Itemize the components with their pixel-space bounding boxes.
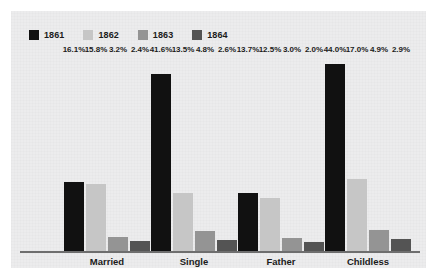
bar-slot-1862: 12.5%	[260, 55, 280, 251]
bar-slot-1863: 3.2%	[108, 55, 128, 251]
bar-value-label: 13.5%	[172, 46, 195, 54]
bar-value-label: 13.7%	[237, 46, 260, 54]
bar-value-label: 4.8%	[196, 46, 214, 54]
bar-slot-1862: 15.8%	[86, 55, 106, 251]
bar-slot-1861: 16.1%	[64, 55, 84, 251]
bar-slot-1861: 41.6%	[151, 55, 171, 251]
legend-label-1861: 1861	[44, 31, 64, 40]
bars-row: 16.1%15.8%3.2%2.4%	[64, 55, 150, 251]
bar-value-label: 3.0%	[283, 46, 301, 54]
legend-item-1861: 1861	[29, 30, 64, 40]
bar-value-label: 44.0%	[324, 46, 347, 54]
legend-label-1863: 1863	[153, 31, 173, 40]
bar-single-1861[interactable]: 41.6%	[151, 74, 171, 251]
legend-swatch-1864	[192, 30, 202, 40]
bars-row: 41.6%13.5%4.8%2.6%	[151, 55, 237, 251]
bar-single-1863[interactable]: 4.8%	[195, 231, 215, 251]
bar-childless-1864[interactable]: 2.9%	[391, 239, 411, 251]
bar-value-label: 12.5%	[259, 46, 282, 54]
bar-slot-1862: 13.5%	[173, 55, 193, 251]
bar-group-single: 41.6%13.5%4.8%2.6%Single	[151, 55, 237, 251]
bar-childless-1861[interactable]: 44.0%	[325, 64, 345, 251]
bar-chart-figure: 1861 1862 1863 1864 16.1%15.8%3.2%2.4%Ma…	[0, 0, 439, 278]
bar-single-1864[interactable]: 2.6%	[217, 240, 237, 251]
legend-swatch-1863	[138, 30, 148, 40]
bar-group-father: 13.7%12.5%3.0%2.0%Father	[238, 55, 324, 251]
bar-father-1862[interactable]: 12.5%	[260, 198, 280, 251]
legend-item-1863: 1863	[138, 30, 173, 40]
bars-row: 13.7%12.5%3.0%2.0%	[238, 55, 324, 251]
bar-slot-1862: 17.0%	[347, 55, 367, 251]
legend-swatch-1861	[29, 30, 39, 40]
bar-father-1861[interactable]: 13.7%	[238, 193, 258, 251]
bar-value-label: 17.0%	[346, 46, 369, 54]
x-axis-line	[20, 251, 420, 253]
bar-married-1861[interactable]: 16.1%	[64, 182, 84, 251]
bar-slot-1864: 2.0%	[304, 55, 324, 251]
bar-slot-1863: 4.8%	[195, 55, 215, 251]
bar-slot-1863: 3.0%	[282, 55, 302, 251]
x-axis-label-married: Married	[64, 257, 150, 267]
bar-group-married: 16.1%15.8%3.2%2.4%Married	[64, 55, 150, 251]
bar-slot-1861: 13.7%	[238, 55, 258, 251]
bar-value-label: 2.6%	[218, 46, 236, 54]
legend-item-1862: 1862	[83, 30, 118, 40]
bar-married-1862[interactable]: 15.8%	[86, 184, 106, 251]
bar-father-1863[interactable]: 3.0%	[282, 238, 302, 251]
bar-value-label: 2.0%	[305, 46, 323, 54]
bar-value-label: 16.1%	[63, 46, 86, 54]
x-axis-label-single: Single	[151, 257, 237, 267]
bar-value-label: 41.6%	[150, 46, 173, 54]
legend-label-1864: 1864	[207, 31, 227, 40]
bar-value-label: 2.4%	[131, 46, 149, 54]
bar-married-1864[interactable]: 2.4%	[130, 241, 150, 251]
bar-slot-1864: 2.6%	[217, 55, 237, 251]
bar-married-1863[interactable]: 3.2%	[108, 237, 128, 251]
x-axis-label-childless: Childless	[325, 257, 411, 267]
bar-father-1864[interactable]: 2.0%	[304, 242, 324, 251]
bar-childless-1863[interactable]: 4.9%	[369, 230, 389, 251]
bar-slot-1863: 4.9%	[369, 55, 389, 251]
bar-slot-1864: 2.4%	[130, 55, 150, 251]
bar-slot-1861: 44.0%	[325, 55, 345, 251]
bar-slot-1864: 2.9%	[391, 55, 411, 251]
legend-item-1864: 1864	[192, 30, 227, 40]
bar-childless-1862[interactable]: 17.0%	[347, 179, 367, 251]
chart-legend: 1861 1862 1863 1864	[29, 30, 228, 40]
plot-area: 16.1%15.8%3.2%2.4%Married41.6%13.5%4.8%2…	[20, 55, 420, 253]
bars-row: 44.0%17.0%4.9%2.9%	[325, 55, 411, 251]
bar-value-label: 15.8%	[85, 46, 108, 54]
legend-label-1862: 1862	[98, 31, 118, 40]
legend-swatch-1862	[83, 30, 93, 40]
bar-single-1862[interactable]: 13.5%	[173, 193, 193, 251]
bar-value-label: 4.9%	[370, 46, 388, 54]
x-axis-label-father: Father	[238, 257, 324, 267]
bar-value-label: 3.2%	[109, 46, 127, 54]
bar-group-childless: 44.0%17.0%4.9%2.9%Childless	[325, 55, 411, 251]
bar-value-label: 2.9%	[392, 46, 410, 54]
